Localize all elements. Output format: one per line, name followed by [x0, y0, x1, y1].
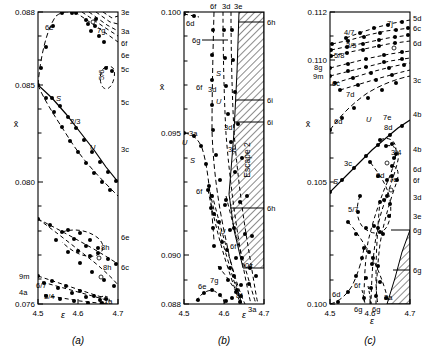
panel-a-plot: 0.088 0.085 0.080 0.076 x̄ 4.5 4.6 4.7 ε [0, 0, 146, 353]
svg-text:6d: 6d [334, 117, 342, 126]
svg-text:U: U [366, 115, 372, 124]
svg-text:5c: 5c [121, 98, 129, 107]
svg-text:6g: 6g [413, 266, 421, 275]
svg-text:4a: 4a [19, 288, 28, 297]
svg-text:0c: 0c [245, 261, 253, 270]
svg-text:8h: 8h [101, 243, 109, 252]
svg-text:6i: 6i [267, 118, 273, 127]
panel-b-xtick-0: 4.5 [178, 309, 190, 318]
panel-a-xtick-0: 4.5 [32, 309, 44, 318]
svg-text:6g: 6g [192, 36, 200, 45]
panel-b-ytick-2: 0.090 [161, 251, 182, 260]
svg-text:3d: 3d [413, 193, 421, 202]
panel-c-curves [328, 20, 410, 304]
panel-b-ytick-3: 0.088 [161, 300, 182, 309]
svg-text:U: U [182, 138, 188, 147]
panel-b-ylabel: x̄ [160, 82, 165, 92]
svg-text:3/4: 3/4 [391, 148, 401, 157]
panel-c-ytick-0: 0.112 [308, 8, 328, 17]
svg-text:5d: 5d [413, 14, 421, 23]
panel-a-axes [38, 12, 118, 304]
svg-text:7d: 7d [346, 90, 354, 99]
panel-a-xtick-1: 4.6 [72, 309, 84, 318]
panel-a-y-ticks [38, 12, 43, 304]
svg-text:7e: 7e [389, 175, 397, 184]
panel-b-caption: (b) [218, 335, 230, 346]
svg-text:6d: 6d [186, 19, 194, 28]
panel-a-caption: (a) [72, 335, 84, 346]
svg-text:3d: 3d [208, 85, 216, 94]
svg-text:6h: 6h [267, 204, 275, 213]
svg-text:3c: 3c [344, 159, 352, 168]
svg-text:7g: 7g [210, 276, 218, 285]
panel-a-curves [36, 11, 118, 305]
svg-text:6f: 6f [196, 187, 203, 196]
svg-text:3d: 3d [222, 2, 230, 11]
svg-text:6f: 6f [121, 39, 128, 48]
panel-c-right-labels: 5d 6c 6d 3c 4b 4b 6d 6f 3d 3e 6g 6g [413, 14, 421, 275]
panel-c-ytick-3: 0.100 [307, 300, 328, 309]
svg-text:S: S [333, 177, 338, 186]
svg-text:S: S [216, 69, 221, 78]
svg-text:3a: 3a [121, 27, 130, 36]
panel-c-plot: 0.112 0.110 0.105 0.100 x̄ 4.5 4.6 4.7 ε [292, 0, 438, 353]
panel-a-ytick-0: 0.088 [15, 8, 36, 17]
svg-text:6e: 6e [45, 23, 53, 32]
panel-a-markers [36, 11, 118, 305]
panel-c-ytick-2: 0.105 [307, 178, 328, 187]
svg-text:3d: 3d [224, 123, 232, 132]
panel-b-ytick-0: 0.100 [161, 8, 182, 17]
panel-a-right-labels: 3e 3a 6f 6e 5c 5c 3c 6e 6c [121, 8, 130, 272]
svg-text:8h: 8h [103, 263, 111, 272]
svg-text:6c: 6c [332, 79, 340, 88]
panel-a-xlabel: ε [61, 310, 66, 320]
svg-text:3/4: 3/4 [44, 292, 54, 301]
svg-text:6c: 6c [413, 24, 421, 33]
panel-a-ytick-1: 0.085 [15, 81, 36, 90]
svg-text:3c: 3c [413, 76, 421, 85]
svg-text:U: U [220, 227, 226, 236]
svg-text:3e: 3e [228, 145, 236, 154]
panel-c-xtick-0: 4.5 [324, 309, 336, 318]
svg-text:6d: 6d [332, 290, 340, 299]
svg-text:4b: 4b [413, 110, 421, 119]
svg-text:6i: 6i [267, 96, 273, 105]
svg-text:3e: 3e [121, 8, 129, 17]
panel-a-ytick-3: 0.076 [15, 300, 36, 309]
svg-text:4/7: 4/7 [344, 28, 354, 37]
svg-text:8f: 8f [236, 291, 243, 300]
svg-text:6e: 6e [121, 233, 129, 242]
svg-text:8g: 8g [314, 63, 322, 72]
panel-a-ytick-2: 0.080 [15, 178, 36, 187]
svg-text:6g: 6g [413, 226, 421, 235]
panel-c-caption: (c) [364, 335, 376, 346]
svg-text:5c: 5c [121, 65, 129, 74]
svg-text:3a: 3a [384, 293, 393, 302]
svg-text:S: S [190, 156, 195, 165]
svg-text:3c: 3c [121, 145, 129, 154]
svg-text:6h: 6h [267, 18, 275, 27]
svg-text:7g: 7g [97, 26, 105, 35]
panel-a: 0.088 0.085 0.080 0.076 x̄ 4.5 4.6 4.7 ε [0, 0, 146, 353]
svg-text:6f: 6f [354, 281, 361, 290]
svg-text:6f: 6f [196, 83, 203, 92]
svg-text:6e: 6e [198, 282, 206, 291]
svg-text:8d: 8d [376, 171, 384, 180]
panel-b-xlabel: ε [242, 310, 247, 320]
svg-text:9m: 9m [19, 272, 29, 281]
svg-text:4b: 4b [413, 145, 421, 154]
panel-b-right-labels: 6h 6i 6i 6h [267, 18, 275, 213]
svg-text:6f: 6f [230, 242, 237, 251]
svg-text:7j: 7j [387, 19, 393, 28]
svg-text:3/5: 3/5 [346, 41, 356, 50]
svg-text:6f: 6f [413, 176, 420, 185]
svg-text:S: S [56, 94, 61, 103]
svg-text:3a: 3a [248, 305, 257, 314]
svg-text:6c: 6c [121, 263, 129, 272]
svg-text:6d: 6d [413, 39, 421, 48]
svg-text:5/8: 5/8 [334, 51, 344, 60]
panel-c-xtick-2: 4.7 [404, 309, 416, 318]
svg-text:6d: 6d [413, 165, 421, 174]
svg-text:6/7: 6/7 [36, 281, 46, 290]
svg-text:6g: 6g [372, 305, 380, 314]
